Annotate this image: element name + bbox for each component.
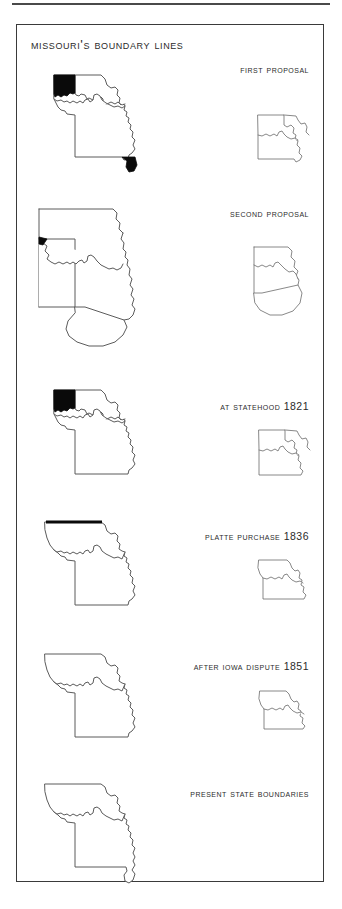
missouri-inset-after-iowa-dispute bbox=[255, 684, 327, 744]
missouri-map-at-statehood bbox=[23, 378, 163, 498]
missouri-map-first-proposal bbox=[23, 63, 163, 183]
top-rule bbox=[12, 3, 330, 5]
missouri-map-platte-purchase bbox=[23, 508, 163, 628]
section-label-at-statehood: At Statehood 1821 bbox=[220, 400, 309, 412]
section-label-after-iowa-dispute: After Iowa Dispute 1851 bbox=[194, 660, 309, 672]
missouri-inset-second-proposal bbox=[248, 241, 332, 329]
page-frame: Missouri's Boundary Lines First Proposal bbox=[16, 24, 324, 882]
section-at-statehood: At Statehood 1821 bbox=[17, 368, 323, 498]
section-label-present-boundaries: Present State Boundaries bbox=[190, 787, 309, 799]
missouri-map-after-iowa-dispute bbox=[23, 640, 163, 760]
section-after-iowa-dispute: After Iowa Dispute 1851 bbox=[17, 628, 323, 758]
missouri-map-present-boundaries bbox=[23, 770, 163, 895]
missouri-inset-at-statehood bbox=[251, 422, 327, 488]
section-second-proposal: Second Proposal bbox=[17, 193, 323, 368]
section-present-boundaries: Present State Boundaries bbox=[17, 758, 323, 883]
section-label-second-proposal: Second Proposal bbox=[230, 207, 309, 219]
section-label-first-proposal: First Proposal bbox=[240, 63, 309, 75]
section-platte-purchase: Platte Purchase 1836 bbox=[17, 498, 323, 628]
missouri-inset-first-proposal bbox=[250, 107, 328, 175]
missouri-inset-platte-purchase bbox=[253, 552, 327, 616]
section-first-proposal: First Proposal bbox=[17, 55, 323, 185]
missouri-map-second-proposal bbox=[23, 199, 168, 369]
page-title: Missouri's Boundary Lines bbox=[31, 37, 183, 52]
section-label-platte-purchase: Platte Purchase 1836 bbox=[205, 530, 309, 542]
